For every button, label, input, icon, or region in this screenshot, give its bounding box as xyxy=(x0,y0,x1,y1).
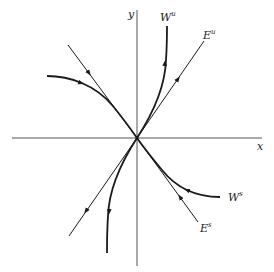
stable-manifold-upper xyxy=(47,76,137,138)
phase-portrait-diagram xyxy=(0,0,274,272)
unstable-eigenspace-lower xyxy=(69,138,137,236)
stable-eigenspace-label: Es xyxy=(200,222,212,234)
y-axis-label: y xyxy=(128,9,134,20)
unstable-eigenspace-upper xyxy=(137,41,204,138)
unstable-manifold-label: Wu xyxy=(160,11,176,23)
unstable-manifold-upper xyxy=(137,26,167,138)
unstable-manifold-lower xyxy=(107,138,137,253)
origin-point xyxy=(136,137,139,140)
x-axis-label: x xyxy=(257,141,263,152)
unstable-eigenspace-label: Eu xyxy=(203,29,216,41)
stable-manifold-lower xyxy=(137,138,220,197)
stable-manifold-label: Ws xyxy=(228,191,243,203)
